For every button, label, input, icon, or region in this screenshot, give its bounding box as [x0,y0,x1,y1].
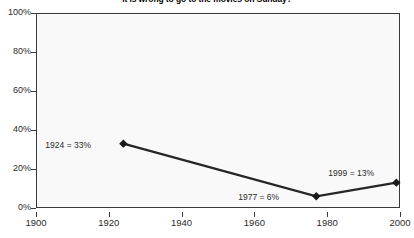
x-tick-label: 1920 [98,218,119,228]
y-tick-label: 20% [0,164,31,173]
x-tick-label: 1980 [317,218,338,228]
y-tick-mark [31,91,36,92]
x-tick-mark [327,212,328,217]
y-tick-label: 40% [0,125,31,134]
y-tick-label: 100% [0,8,31,17]
y-tick-mark [31,130,36,131]
point-annotation: 1924 = 33% [45,140,91,150]
point-annotation: 1999 = 13% [328,168,374,178]
x-tick-label: 2000 [389,218,410,228]
x-tick-mark [109,212,110,217]
y-tick-label: 60% [0,86,31,95]
y-tick-mark [31,13,36,14]
y-tick-label: 0% [0,203,31,212]
x-tick-label: 1900 [25,218,46,228]
chart-title: It is wrong to go to the movies on Sunda… [0,0,414,5]
x-tick-mark [254,212,255,217]
chart-container: It is wrong to go to the movies on Sunda… [0,0,414,238]
x-tick-label: 1940 [171,218,192,228]
x-tick-mark [400,212,401,217]
x-tick-mark [182,212,183,217]
y-tick-mark [31,52,36,53]
y-tick-mark [31,169,36,170]
x-tick-mark [36,212,37,217]
x-tick-label: 1960 [244,218,265,228]
y-axis: 0%20%40%60%80%100% [0,0,33,238]
y-tick-label: 80% [0,47,31,56]
plot-area [36,13,400,208]
x-axis: 190019201940196019802000 [0,212,414,232]
y-tick-mark [31,208,36,209]
point-annotation: 1977 = 6% [238,192,279,202]
